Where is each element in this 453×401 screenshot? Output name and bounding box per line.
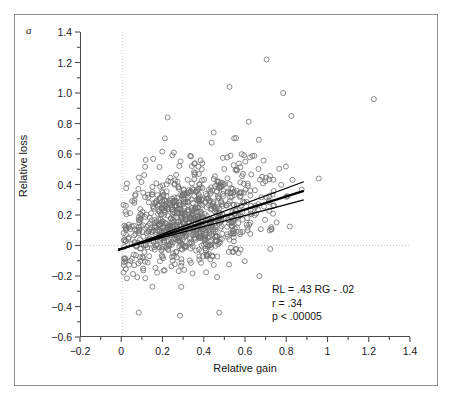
scatter-point (136, 175, 141, 180)
scatter-point (277, 166, 282, 171)
scatter-point (147, 254, 152, 259)
regression-equation: RL = .43 RG - .02 (272, 283, 354, 297)
scatter-point (217, 310, 222, 315)
y-tick-label: −0.6 (28, 332, 72, 343)
scatter-point (248, 193, 253, 198)
scatter-point (252, 188, 257, 193)
x-tick-label: 0 (118, 346, 124, 357)
scatter-points (121, 57, 376, 318)
scatter-point (227, 262, 232, 267)
scatter-point (222, 167, 227, 172)
y-tick-label: 1.2 (28, 57, 72, 68)
scatter-point (283, 164, 288, 169)
pvalue-text: p < .00005 (272, 310, 354, 324)
y-tick-label: 0.6 (28, 149, 72, 160)
scatter-point (211, 130, 216, 135)
scatter-point (142, 172, 147, 177)
x-axis-title: Relative gain (80, 362, 410, 374)
scatter-point (246, 119, 251, 124)
scatter-point (371, 97, 376, 102)
scatter-point (215, 275, 220, 280)
scatter-point (179, 284, 184, 289)
scatter-point (157, 165, 162, 170)
scatter-point (242, 259, 247, 264)
scatter-point (225, 176, 230, 181)
scatter-point (190, 271, 195, 276)
scatter-point (157, 259, 162, 264)
scatter-point (178, 159, 183, 164)
figure-root: a −0.6−0.4−0.200.20.40.60.81.01.21.4 −0.… (0, 0, 453, 401)
scatter-plot-area (80, 32, 410, 337)
scatter-point (263, 217, 268, 222)
scatter-point (143, 164, 148, 169)
scatter-point (179, 260, 184, 265)
x-tick-label: 1 (325, 346, 331, 357)
scatter-point (258, 227, 263, 232)
scatter-point (165, 213, 170, 218)
correlation-value: r = .34 (272, 297, 354, 311)
scatter-point (131, 271, 136, 276)
scatter-point (193, 248, 198, 253)
scatter-point (143, 276, 148, 281)
scatter-point (139, 180, 144, 185)
scatter-point (155, 270, 160, 275)
scatter-point (177, 164, 182, 169)
scatter-point (165, 115, 170, 120)
scatter-point (153, 265, 158, 270)
scatter-point (124, 276, 129, 281)
stats-annotation: RL = .43 RG - .02 r = .34 p < .00005 (272, 283, 354, 324)
scatter-point (289, 113, 294, 118)
scatter-plot-svg (81, 32, 410, 337)
x-tick-label: 0.4 (196, 346, 211, 357)
scatter-point (211, 263, 216, 268)
x-tick-label: 0.8 (279, 346, 294, 357)
scatter-point (268, 247, 273, 252)
y-tick-label: 0.8 (28, 118, 72, 129)
scatter-point (124, 186, 129, 191)
scatter-point (249, 172, 254, 177)
y-tick-label: −0.4 (28, 301, 72, 312)
scatter-point (209, 140, 214, 145)
scatter-point (196, 164, 201, 169)
scatter-point (197, 254, 202, 259)
scatter-point (316, 176, 321, 181)
scatter-point (274, 220, 279, 225)
x-tick-label: 1.4 (403, 346, 418, 357)
scatter-point (290, 177, 295, 182)
y-tick-label: 0 (28, 240, 72, 251)
scatter-point (256, 137, 261, 142)
y-tick-label: 0.4 (28, 179, 72, 190)
scatter-point (151, 156, 156, 161)
x-tick-label: 0.6 (238, 346, 253, 357)
scatter-point (143, 157, 148, 162)
scatter-point (248, 188, 253, 193)
y-tick-label: 1.4 (28, 27, 72, 38)
scatter-point (257, 274, 262, 279)
scatter-point (287, 224, 292, 229)
scatter-point (256, 166, 261, 171)
scatter-point (132, 233, 137, 238)
y-axis-title: Relative loss (17, 111, 29, 221)
scatter-point (279, 182, 284, 187)
scatter-point (125, 181, 130, 186)
scatter-point (281, 91, 286, 96)
y-tick-label: 0.2 (28, 210, 72, 221)
scatter-point (182, 267, 187, 272)
scatter-point (176, 269, 181, 274)
x-tick-label: −0.2 (70, 346, 91, 357)
scatter-point (199, 167, 204, 172)
scatter-point (160, 149, 165, 154)
scatter-point (162, 136, 167, 141)
scatter-point (185, 177, 190, 182)
scatter-point (174, 172, 179, 177)
scatter-point (136, 187, 141, 192)
x-tick-label: 0.2 (155, 346, 170, 357)
y-tick-label: 1.0 (28, 88, 72, 99)
scatter-point (227, 84, 232, 89)
scatter-point (244, 216, 249, 221)
scatter-point (248, 231, 253, 236)
scatter-point (264, 57, 269, 62)
x-tick-label: 1.2 (361, 346, 376, 357)
scatter-point (204, 270, 209, 275)
scatter-point (220, 231, 225, 236)
